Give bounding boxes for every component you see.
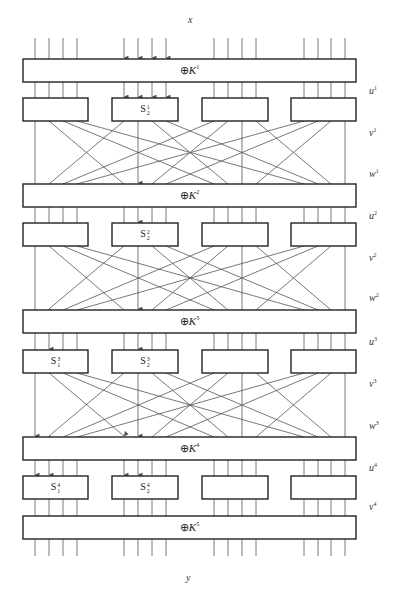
xor-key-label-5: ⊕K5 <box>23 521 356 534</box>
xor-icon: ⊕ <box>180 521 189 533</box>
sbox-label-4-1: S41 <box>23 481 88 494</box>
xor-icon: ⊕ <box>180 315 189 327</box>
sbox-label-1-2: S12 <box>112 103 178 116</box>
side-label-v4: v4 <box>369 501 376 512</box>
sbox-4-4 <box>291 476 356 499</box>
sbox-1-4 <box>291 98 356 121</box>
side-label-u3: u3 <box>369 336 377 347</box>
sbox-2-3 <box>202 223 268 246</box>
sbox-3-3 <box>202 350 268 373</box>
side-label-v1: v1 <box>369 127 376 138</box>
sbox-label-2-2: S22 <box>112 228 178 241</box>
side-label-v2: v2 <box>369 252 376 263</box>
sbox-label-3-2: S32 <box>112 355 178 368</box>
sbox-1-3 <box>202 98 268 121</box>
sbox-label-3-1: S31 <box>23 355 88 368</box>
xor-key-label-3: ⊕K3 <box>23 315 356 328</box>
xor-key-label-1: ⊕K1 <box>23 64 356 77</box>
xor-icon: ⊕ <box>180 189 189 201</box>
output-label-y: y <box>186 572 190 583</box>
side-label-w3: w3 <box>369 420 379 431</box>
sbox-2-1 <box>23 223 88 246</box>
side-label-w2: w2 <box>369 292 379 303</box>
sbox-3-4 <box>291 350 356 373</box>
side-label-u2: u2 <box>369 210 377 221</box>
sbox-label-4-2: S42 <box>112 481 178 494</box>
xor-key-label-4: ⊕K4 <box>23 442 356 455</box>
spn-wiring-canvas <box>0 0 396 596</box>
input-label-x: x <box>188 14 192 25</box>
xor-icon: ⊕ <box>180 442 189 454</box>
side-label-u4: u4 <box>369 462 377 473</box>
spn-diagram: x y ⊕K1⊕K2⊕K3⊕K4⊕K5 S12S22S31S32S41S42 u… <box>0 0 396 596</box>
sbox-4-3 <box>202 476 268 499</box>
xor-key-label-2: ⊕K2 <box>23 189 356 202</box>
side-label-u1: u1 <box>369 85 377 96</box>
side-label-w1: w1 <box>369 168 379 179</box>
sbox-1-1 <box>23 98 88 121</box>
sbox-2-4 <box>291 223 356 246</box>
side-label-v3: v3 <box>369 378 376 389</box>
xor-icon: ⊕ <box>180 64 189 76</box>
